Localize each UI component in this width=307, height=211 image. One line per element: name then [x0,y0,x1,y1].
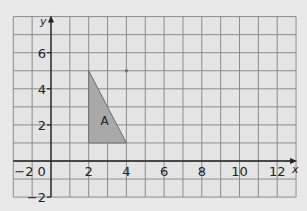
y-tick-label: 2 [38,118,46,133]
x-tick-label: 12 [269,164,286,179]
x-tick-label: 0 [37,164,45,179]
x-tick-label: −2 [14,164,33,179]
y-tick-label: 4 [38,82,46,97]
plotted-point [125,69,129,73]
x-tick-label: 10 [231,164,248,179]
points-layer [125,69,129,73]
coordinate-grid-diagram: A −2024681012642−2xy [0,0,307,211]
x-tick-label: 2 [85,164,93,179]
x-axis-label: x [291,163,299,176]
x-tick-label: 4 [122,164,130,179]
grid-svg: A −2024681012642−2xy [0,0,307,211]
x-tick-label: 6 [160,164,168,179]
y-tick-label: 6 [38,46,46,61]
shape-label: A [100,114,109,128]
x-tick-label: 8 [198,164,206,179]
y-axis-label: y [39,15,47,28]
y-tick-label: −2 [27,190,46,205]
